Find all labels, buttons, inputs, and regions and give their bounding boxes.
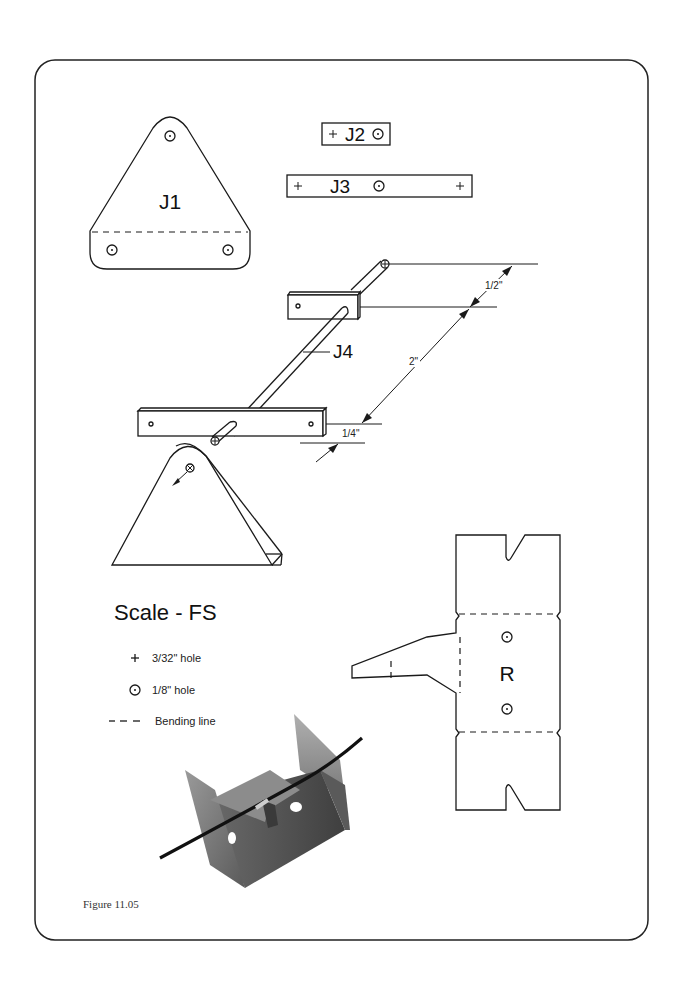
plus-icon	[329, 130, 337, 138]
circle-dot-icon	[373, 129, 383, 139]
part-label-r: R	[499, 662, 514, 685]
bracket-photo	[160, 714, 362, 888]
assembly-view: J4 1/2	[112, 260, 538, 565]
plus-icon	[131, 654, 139, 662]
figure-caption: Figure 11.05	[83, 898, 139, 910]
dimension-two-inch: 2"	[409, 356, 419, 367]
legend-item-small-hole: 3/32" hole	[131, 652, 201, 664]
part-j1-flat: J1	[90, 117, 250, 269]
figure-canvas: J1 J2 J3	[0, 0, 680, 991]
circle-dot-icon	[502, 704, 512, 714]
dimension-half-inch: 1/2"	[485, 280, 503, 291]
part-label-j4: J4	[333, 341, 354, 362]
part-label-j2: J2	[345, 124, 365, 145]
circle-dot-icon	[374, 181, 384, 191]
circle-dot-icon	[107, 245, 117, 255]
part-label-j3: J3	[330, 176, 350, 197]
plus-icon	[456, 182, 464, 190]
part-label-j1: J1	[159, 190, 181, 213]
circle-dot-icon	[130, 685, 140, 695]
scale-title: Scale - FS	[114, 600, 217, 625]
legend-label: Bending line	[155, 715, 216, 727]
dimension-quarter-inch: 1/4"	[342, 428, 360, 439]
plus-icon	[294, 182, 302, 190]
legend: 3/32" hole 1/8" hole Bending line	[109, 652, 216, 727]
legend-label: 1/8" hole	[152, 684, 195, 696]
part-j2: J2	[322, 123, 390, 145]
circle-dot-icon	[223, 245, 233, 255]
part-r-flat: R	[352, 535, 560, 810]
part-j3: J3	[287, 175, 472, 197]
legend-label: 3/32" hole	[152, 652, 201, 664]
circle-dot-icon	[502, 632, 512, 642]
circle-dot-icon	[165, 131, 175, 141]
legend-item-large-hole: 1/8" hole	[130, 684, 195, 696]
legend-item-bending-line: Bending line	[109, 715, 216, 727]
